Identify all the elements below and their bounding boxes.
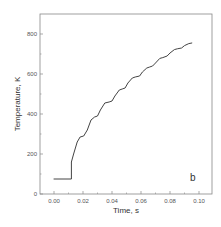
y-tick-label: 200	[27, 151, 38, 157]
x-axis-tick-labels: 0.000.020.040.060.080.10	[48, 198, 205, 204]
y-axis-label: Temperature, K	[13, 76, 22, 131]
x-tick-label: 0.02	[77, 198, 89, 204]
x-tick-label: 0.10	[193, 198, 205, 204]
x-tick-label: 0.04	[106, 198, 118, 204]
temperature-line	[54, 43, 192, 179]
plot-frame	[40, 14, 212, 194]
y-tick-label: 0	[34, 191, 38, 197]
x-tick-label: 0.06	[135, 198, 147, 204]
y-tick-label: 600	[27, 71, 38, 77]
y-tick-label: 400	[27, 111, 38, 117]
x-axis-ticks	[54, 191, 199, 194]
y-axis-tick-labels: 0200400600800	[27, 31, 38, 197]
x-tick-label: 0.08	[164, 198, 176, 204]
temperature-time-chart: 0.000.020.040.060.080.10 0200400600800 T…	[0, 0, 221, 227]
y-axis-ticks	[40, 34, 43, 194]
panel-label: b	[190, 172, 196, 183]
x-axis-label: Time, s	[113, 206, 139, 215]
x-tick-label: 0.00	[48, 198, 60, 204]
y-tick-label: 800	[27, 31, 38, 37]
